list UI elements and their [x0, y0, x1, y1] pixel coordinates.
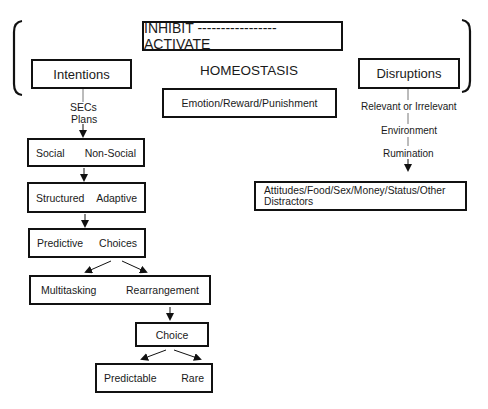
choice-label: Choice [156, 329, 189, 341]
inhibit-activate-box: INHIBIT ----------------- ACTIVATE [142, 21, 343, 51]
disruptions-box: Disruptions [358, 58, 460, 89]
left-bracket [14, 21, 22, 95]
structured-box: Structured Adaptive [27, 182, 146, 213]
secs-label: SECs [70, 101, 97, 113]
choice-box: Choice [135, 322, 209, 347]
social-box: Social Non-Social [27, 138, 145, 167]
environment-label: Environment [381, 125, 437, 136]
structured-label: Structured [36, 192, 84, 204]
multitasking-box: Multitasking Rearrangement [29, 275, 211, 305]
intentions-box: Intentions [31, 59, 132, 89]
right-bracket [462, 20, 470, 92]
predictable-label: Predictable [104, 372, 157, 384]
intentions-label: Intentions [53, 67, 109, 82]
emotion-reward-punishment-box: Emotion/Reward/Punishment [162, 88, 337, 118]
relevant-label: Relevant or Irrelevant [361, 101, 457, 112]
adaptive-label: Adaptive [96, 192, 137, 204]
multitasking-label: Multitasking [41, 284, 96, 296]
homeostasis-label: HOMEOSTASIS [200, 63, 298, 78]
rearrangement-label: Rearrangement [126, 284, 199, 296]
non-social-label: Non-Social [85, 147, 136, 159]
range-label: INHIBIT ----------------- ACTIVATE [144, 20, 341, 52]
emotion-label: Emotion/Reward/Punishment [182, 97, 318, 109]
choices-label: Choices [99, 237, 137, 249]
distractors-label: Attitudes/Food/Sex/Money/Status/Other Di… [264, 185, 465, 207]
predictable-box: Predictable Rare [95, 363, 213, 393]
distractors-box: Attitudes/Food/Sex/Money/Status/Other Di… [254, 181, 467, 211]
predictive-label: Predictive [37, 237, 83, 249]
plans-label: Plans [71, 113, 97, 125]
social-label: Social [36, 147, 65, 159]
predictive-box: Predictive Choices [28, 228, 146, 258]
rare-label: Rare [181, 372, 204, 384]
rumination-label: Rumination [383, 148, 434, 159]
disruptions-label: Disruptions [376, 66, 441, 81]
